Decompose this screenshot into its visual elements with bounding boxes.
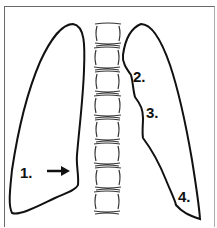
label-4: 4. [178,188,191,205]
label-1: 1. [20,164,33,181]
vertebra [95,71,120,94]
vertebra [94,191,120,214]
vertebra [95,167,121,190]
vertebra [94,47,120,70]
lung-diagram: 1. 2. 3. 4. [0,0,217,228]
vertebra [94,143,120,166]
vertebra [95,23,121,46]
label-2: 2. [133,68,146,85]
left-lung-outline [10,24,85,214]
vertebra [95,119,120,142]
right-arrow-icon [47,166,70,176]
label-3: 3. [146,104,159,121]
vertebra [94,95,121,118]
spine [94,23,121,214]
